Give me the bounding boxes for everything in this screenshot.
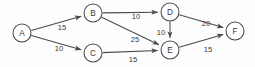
- node-b: B: [84, 4, 102, 22]
- node-label-a: A: [19, 29, 25, 38]
- node-a: A: [13, 24, 31, 42]
- node-label-c: C: [90, 49, 96, 58]
- node-c: C: [84, 44, 102, 62]
- edge-weight-d-f: 20: [202, 19, 210, 28]
- edge-weight-e-f: 15: [204, 45, 212, 54]
- node-label-e: E: [167, 46, 173, 55]
- edge-weight-b-e: 25: [131, 35, 139, 44]
- node-e: E: [161, 41, 179, 59]
- edge-c-to-e: [103, 50, 158, 52]
- node-label-d: D: [167, 8, 173, 17]
- edge-weight-a-b: 15: [58, 23, 66, 32]
- edge-weight-a-c: 10: [55, 44, 63, 53]
- graph-diagram: ABCDEF 1510102515102015: [0, 0, 255, 67]
- edge-weight-d-e: 10: [157, 28, 165, 37]
- node-label-b: B: [90, 9, 96, 18]
- node-label-f: F: [232, 27, 237, 36]
- edge-weight-c-e: 15: [129, 55, 137, 64]
- graph-canvas: ABCDEF 1510102515102015: [0, 0, 255, 67]
- node-f: F: [226, 22, 244, 40]
- edge-a-to-b: [31, 16, 81, 30]
- edge-weight-b-d: 10: [132, 12, 140, 21]
- node-d: D: [161, 3, 179, 21]
- edge-b-to-d: [103, 12, 158, 13]
- edge-weights-group: 1510102515102015: [55, 12, 212, 64]
- edge-e-to-f: [179, 34, 223, 47]
